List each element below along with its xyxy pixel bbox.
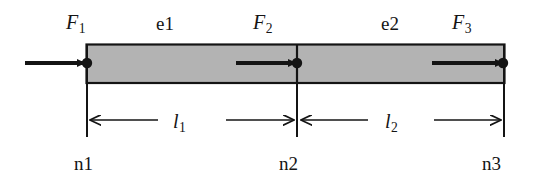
element-label-e2: e2 <box>381 14 399 33</box>
length-label-l1: l1 <box>173 111 186 131</box>
force-label-f1-base: F <box>66 11 78 33</box>
force-label-f3: F3 <box>452 12 472 32</box>
length-label-l2-subscript: 2 <box>391 120 398 135</box>
node-dot-n1 <box>82 58 92 68</box>
node-dot-n2 <box>292 58 302 68</box>
node-label-n1: n1 <box>74 154 93 173</box>
force-label-f3-subscript: 3 <box>464 21 471 36</box>
force-label-f2: F2 <box>253 12 273 32</box>
element-label-e1: e1 <box>156 14 174 33</box>
node-label-n2: n2 <box>279 154 298 173</box>
force-label-f1: F1 <box>66 12 86 32</box>
force-label-f2-subscript: 2 <box>265 21 272 36</box>
node-dot-n3 <box>498 58 508 68</box>
length-label-l2-base: l <box>385 110 391 132</box>
force-label-f2-base: F <box>253 11 265 33</box>
length-label-l2: l2 <box>385 111 398 131</box>
force-label-f3-base: F <box>452 11 464 33</box>
length-label-l1-base: l <box>173 110 179 132</box>
node-label-n3: n3 <box>482 154 501 173</box>
length-label-l1-subscript: 1 <box>179 120 186 135</box>
force-label-f1-subscript: 1 <box>78 21 85 36</box>
bar-element-diagram: F1 F2 F3 e1 e2 l1 l2 n1 n2 n3 <box>0 0 534 183</box>
